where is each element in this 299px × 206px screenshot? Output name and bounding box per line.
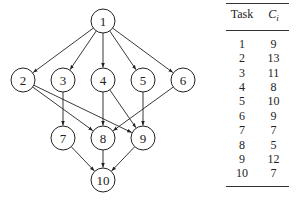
cost-cell: 12 (258, 152, 289, 166)
header-task: Task (226, 7, 258, 26)
edge-1-to-6 (113, 28, 173, 72)
table-row: 107 (226, 166, 289, 180)
table-row: 48 (226, 80, 289, 94)
table-header-row: Task Ci (226, 7, 289, 26)
header-ci: Ci (258, 7, 289, 26)
task-id-cell: 2 (226, 51, 258, 65)
table-row: 311 (226, 66, 289, 80)
task-id-cell: 4 (226, 80, 258, 94)
edge-7-to-10 (71, 147, 94, 171)
edge-4-to-9 (110, 90, 136, 128)
task-id-cell: 10 (226, 166, 258, 180)
cost-cell: 5 (258, 138, 289, 152)
cost-cell: 8 (258, 80, 289, 94)
cost-cell: 7 (258, 123, 289, 137)
node-label: 8 (100, 131, 107, 146)
node-label: 9 (140, 131, 147, 146)
node-label: 1 (100, 14, 107, 29)
table-row: 69 (226, 109, 289, 123)
task-node-9: 9 (131, 126, 155, 150)
task-node-8: 8 (91, 126, 115, 150)
task-id-cell: 3 (226, 66, 258, 80)
edge-1-to-5 (110, 31, 136, 70)
node-label: 6 (180, 73, 187, 88)
task-id-cell: 7 (226, 123, 258, 137)
task-id-cell: 1 (226, 37, 258, 51)
task-dependency-graph: 12345678910 (0, 0, 210, 206)
node-label: 7 (60, 131, 67, 146)
cost-cell: 7 (258, 166, 289, 180)
task-node-1: 1 (91, 9, 115, 33)
edge-1-to-3 (70, 31, 96, 70)
node-label: 4 (100, 73, 107, 88)
cost-cell: 9 (258, 37, 289, 51)
task-node-7: 7 (51, 126, 75, 150)
cost-cell: 13 (258, 51, 289, 65)
node-label: 10 (97, 173, 110, 188)
task-node-6: 6 (171, 68, 195, 92)
table-row: 85 (226, 138, 289, 152)
table-row: 912 (226, 152, 289, 166)
cost-cell: 11 (258, 66, 289, 80)
task-id-cell: 9 (226, 152, 258, 166)
cost-cell: 9 (258, 109, 289, 123)
task-id-cell: 8 (226, 138, 258, 152)
table-bottom-rule (226, 186, 289, 187)
table-row: 19 (226, 37, 289, 51)
task-cost-table: Task Ci 1921331148510697785912107 (226, 3, 289, 187)
task-node-2: 2 (11, 68, 35, 92)
task-node-3: 3 (51, 68, 75, 92)
table-top-rule (226, 3, 289, 4)
task-id-cell: 6 (226, 109, 258, 123)
task-node-10: 10 (91, 168, 115, 192)
edge-9-to-10 (112, 147, 135, 171)
header-ci-subscript: i (276, 13, 279, 23)
table-header-rule (226, 30, 289, 31)
node-label: 3 (60, 73, 67, 88)
table-row: 77 (226, 123, 289, 137)
node-label: 2 (20, 73, 27, 88)
task-id-cell: 5 (226, 94, 258, 108)
edge-2-to-9 (34, 85, 132, 132)
cost-cell: 10 (258, 94, 289, 108)
table-body: 1921331148510697785912107 (226, 37, 289, 181)
node-label: 5 (140, 73, 147, 88)
task-node-4: 4 (91, 68, 115, 92)
table-row: 510 (226, 94, 289, 108)
edge-1-to-2 (33, 28, 93, 72)
task-node-5: 5 (131, 68, 155, 92)
table-row: 213 (226, 51, 289, 65)
